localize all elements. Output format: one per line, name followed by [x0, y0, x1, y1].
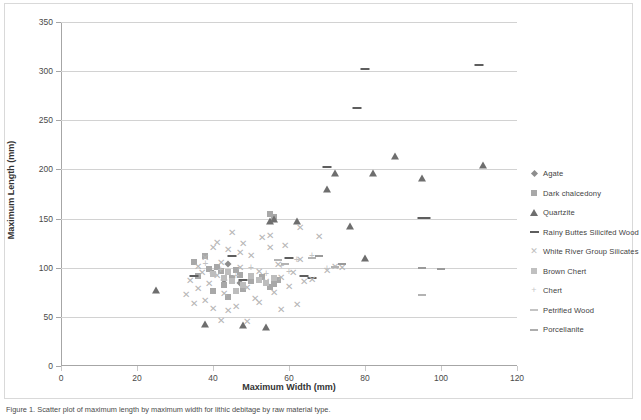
- data-point: [221, 275, 227, 281]
- data-point: ✕: [236, 249, 244, 257]
- legend-marker-icon: [529, 169, 539, 179]
- legend-marker-icon: [529, 266, 539, 276]
- legend-item[interactable]: Brown Chert: [529, 262, 633, 282]
- gridline-y: [61, 120, 517, 121]
- y-axis-tick-label: 200: [39, 164, 53, 174]
- x-axis-tick: [137, 366, 138, 371]
- gridline-y: [61, 169, 517, 170]
- data-point: [274, 259, 282, 261]
- legend-item-label: Porcellanite: [543, 325, 584, 334]
- data-point: [263, 280, 269, 286]
- data-point: ✕: [293, 301, 301, 309]
- data-point: [271, 275, 277, 281]
- legend-item[interactable]: ✕White River Group Silicates: [529, 242, 633, 262]
- data-point: [256, 277, 262, 283]
- legend-item[interactable]: Porcellanite: [529, 320, 633, 340]
- x-axis-tick: [213, 366, 214, 371]
- legend-marker-icon: [529, 305, 539, 315]
- data-point: ✕: [217, 317, 225, 325]
- data-point: +: [262, 270, 270, 278]
- legend-item-label: Chert: [543, 286, 562, 295]
- gridline-y: [61, 219, 517, 220]
- data-point: +: [285, 268, 293, 276]
- legend-marker-icon: [529, 325, 539, 335]
- data-point: ✕: [266, 232, 274, 240]
- legend-item-label: Brown Chert: [543, 267, 586, 276]
- data-point: +: [217, 266, 225, 274]
- plot-background: [61, 22, 517, 366]
- x-axis-tick: [441, 366, 442, 371]
- legend-item[interactable]: Petrified Wood: [529, 301, 633, 321]
- figure-container: 050100150200250300350020406080100120✕✕✕✕…: [0, 0, 641, 420]
- y-axis-tick-label: 100: [39, 263, 53, 273]
- data-point: ✕: [277, 306, 285, 314]
- legend-marker-icon: [529, 188, 539, 198]
- data-point: ✕: [220, 290, 228, 298]
- data-point: ✕: [243, 318, 251, 326]
- data-point: [338, 263, 346, 265]
- legend-marker-icon: [529, 208, 539, 218]
- x-axis-title: Maximum Width (mm): [61, 382, 517, 392]
- data-point: [239, 279, 248, 281]
- y-axis-tick: [56, 71, 61, 72]
- legend-item-label: Quartzite: [543, 208, 575, 217]
- y-axis-tick: [56, 268, 61, 269]
- chart-frame: 050100150200250300350020406080100120✕✕✕✕…: [4, 3, 633, 399]
- y-axis-tick: [56, 22, 61, 23]
- data-point: +: [201, 260, 209, 268]
- data-point: ✕: [255, 299, 263, 307]
- legend-marker-icon: ✕: [529, 247, 539, 257]
- data-point: [391, 152, 399, 159]
- figure-caption: Figure 1. Scatter plot of maximum length…: [6, 405, 636, 414]
- data-point: +: [293, 256, 301, 264]
- data-point: [331, 170, 339, 177]
- data-point: [308, 257, 316, 259]
- legend-marker-icon: +: [529, 286, 539, 296]
- data-point: ✕: [296, 224, 304, 232]
- legend-item[interactable]: Quartzite: [529, 203, 633, 223]
- data-point: ✕: [205, 280, 213, 288]
- data-point: +: [232, 272, 240, 280]
- legend-item[interactable]: Rainy Buttes Silicifed Wood: [529, 223, 633, 243]
- data-point: ✕: [308, 276, 316, 284]
- legend-item-label: Rainy Buttes Silicifed Wood: [543, 228, 639, 237]
- legend-item[interactable]: Dark chalcedony: [529, 184, 633, 204]
- x-axis-tick: [61, 366, 62, 371]
- data-point: [418, 175, 426, 182]
- data-point: [361, 254, 369, 261]
- y-axis-tick-label: 250: [39, 115, 53, 125]
- data-point: [479, 161, 487, 168]
- gridline-y: [61, 22, 517, 23]
- data-point: +: [247, 264, 255, 272]
- y-axis-tick: [56, 169, 61, 170]
- data-point: [233, 288, 239, 294]
- plot-area: 050100150200250300350020406080100120✕✕✕✕…: [61, 22, 517, 366]
- y-axis-tick: [56, 317, 61, 318]
- data-point: ✕: [194, 285, 202, 293]
- legend-item[interactable]: Agate: [529, 164, 633, 184]
- y-axis-line: [61, 22, 62, 366]
- x-axis-tick: [365, 366, 366, 371]
- data-point: [248, 273, 254, 279]
- data-point: ✕: [224, 307, 232, 315]
- data-point: [240, 282, 246, 288]
- data-point: [346, 223, 354, 230]
- data-point: [361, 68, 370, 70]
- gridline-y: [61, 71, 517, 72]
- y-axis-tick-label: 300: [39, 66, 53, 76]
- data-point: ✕: [247, 252, 255, 260]
- data-point: [369, 170, 377, 177]
- data-point: [281, 263, 289, 265]
- data-point: [270, 215, 278, 222]
- data-point: ✕: [224, 246, 232, 254]
- data-point: [262, 323, 270, 330]
- legend-item[interactable]: +Chert: [529, 281, 633, 301]
- y-axis-tick: [56, 219, 61, 220]
- data-point: ✕: [190, 300, 198, 308]
- legend-marker-icon: [529, 227, 539, 237]
- x-axis-tick: [517, 366, 518, 371]
- data-point: ✕: [213, 239, 221, 247]
- data-point: ✕: [285, 283, 293, 291]
- x-axis-tick: [289, 366, 290, 371]
- data-point: ✕: [232, 303, 240, 311]
